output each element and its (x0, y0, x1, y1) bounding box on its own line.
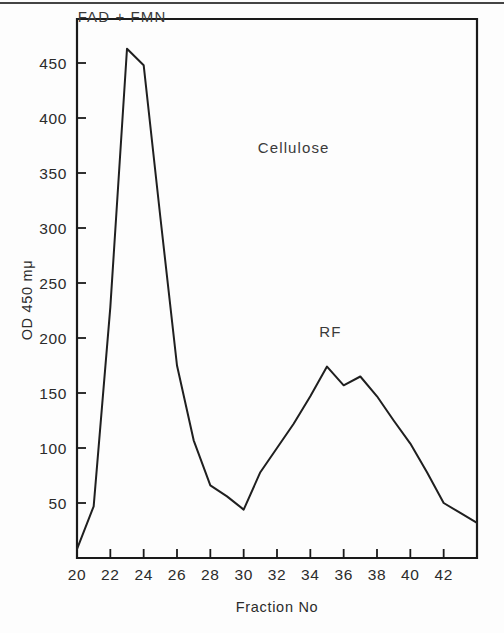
y-axis-tick-labels: 50100150200250300350400450 (39, 55, 67, 512)
y-axis-ticks (77, 63, 86, 503)
y-tick-label-450: 450 (39, 55, 67, 72)
y-tick-label-100: 100 (39, 440, 67, 457)
x-tick-label-22: 22 (101, 566, 119, 583)
od450-series-line (77, 49, 477, 550)
figure-canvas: 50100150200250300350400450 2022242628303… (0, 0, 504, 633)
y-tick-label-50: 50 (49, 495, 67, 512)
fad-fmn-label: FAD + FMN (78, 8, 167, 25)
x-tick-label-38: 38 (368, 566, 386, 583)
x-tick-label-36: 36 (334, 566, 352, 583)
y-tick-label-350: 350 (39, 165, 67, 182)
x-tick-label-42: 42 (434, 566, 452, 583)
y-tick-label-250: 250 (39, 275, 67, 292)
y-tick-label-150: 150 (39, 385, 67, 402)
x-tick-label-28: 28 (201, 566, 219, 583)
x-tick-label-24: 24 (134, 566, 152, 583)
x-axis-tick-labels: 202224262830323436384042 (68, 566, 453, 583)
plot-annotations: FAD + FMNCelluloseRF (78, 8, 342, 340)
plot-frame (77, 19, 477, 558)
x-tick-label-34: 34 (301, 566, 319, 583)
y-tick-label-200: 200 (39, 330, 67, 347)
y-axis-title: OD 450 mμ (19, 260, 35, 341)
cellulose-label: Cellulose (258, 139, 330, 156)
x-tick-label-32: 32 (268, 566, 286, 583)
rf-label: RF (319, 323, 341, 340)
x-tick-label-40: 40 (401, 566, 419, 583)
y-tick-label-400: 400 (39, 110, 67, 127)
x-tick-label-20: 20 (68, 566, 86, 583)
x-tick-label-30: 30 (234, 566, 252, 583)
x-axis-title: Fraction No (236, 599, 319, 615)
line-chart: 50100150200250300350400450 2022242628303… (0, 0, 504, 633)
x-axis-ticks (77, 549, 444, 558)
x-tick-label-26: 26 (168, 566, 186, 583)
y-tick-label-300: 300 (39, 220, 67, 237)
